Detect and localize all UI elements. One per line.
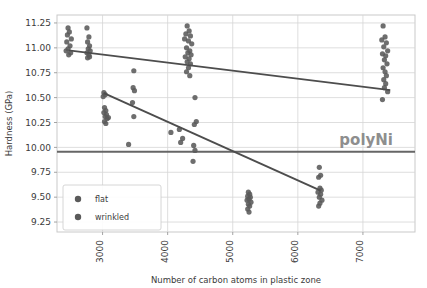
ytick-label-7: 11.00 <box>25 43 51 53</box>
data-point-flat <box>188 33 193 38</box>
y-axis-label: Hardness (GPa) <box>4 91 14 157</box>
data-point-wrinkled <box>316 204 321 209</box>
chart-figure: 9.259.509.7510.0010.2510.5010.7511.0011.… <box>0 0 427 288</box>
data-point-wrinkled <box>101 94 106 99</box>
ytick-label-8: 11.25 <box>25 18 51 28</box>
data-point-flat <box>131 114 136 119</box>
ytick-label-4: 10.25 <box>25 118 51 128</box>
ytick-label-2: 9.75 <box>31 167 51 177</box>
ytick-label-6: 10.75 <box>25 68 51 78</box>
ytick-label-1: 9.50 <box>31 192 51 202</box>
xtick-label-2: 5000 <box>225 240 235 263</box>
data-point-flat <box>379 37 384 42</box>
data-point-wrinkled <box>103 121 108 126</box>
data-point-wrinkled <box>168 130 173 135</box>
data-point-flat <box>132 88 137 93</box>
data-point-flat <box>85 55 90 60</box>
data-point-wrinkled <box>178 140 183 145</box>
data-point-flat <box>185 23 190 28</box>
legend-box <box>63 185 161 230</box>
scatter-plot: 9.259.509.7510.0010.2510.5010.7511.0011.… <box>0 0 427 288</box>
data-point-wrinkled <box>192 148 197 153</box>
data-point-wrinkled <box>246 209 251 214</box>
data-point-flat <box>66 52 71 57</box>
data-point-flat <box>86 34 91 39</box>
ytick-label-5: 10.50 <box>25 93 51 103</box>
data-point-flat <box>84 25 89 30</box>
xtick-label-0: 3000 <box>95 240 105 263</box>
data-point-flat <box>192 122 197 127</box>
data-point-flat <box>192 95 197 100</box>
legend-marker-wrinkled <box>75 214 81 220</box>
data-point-flat <box>380 97 385 102</box>
data-point-flat <box>384 61 389 66</box>
data-point-flat <box>187 73 192 78</box>
x-axis-label: Number of carbon atoms in plastic zone <box>151 275 321 285</box>
data-point-flat <box>385 48 390 53</box>
data-point-wrinkled <box>316 175 321 180</box>
legend-label-flat: flat <box>95 195 108 204</box>
legend-label-wrinkled: wrinkled <box>95 213 129 222</box>
data-point-wrinkled <box>191 143 196 148</box>
legend-marker-flat <box>75 196 81 202</box>
xtick-label-4: 7000 <box>355 240 365 263</box>
xtick-label-1: 4000 <box>160 240 170 263</box>
data-point-wrinkled <box>126 142 131 147</box>
data-point-wrinkled <box>317 165 322 170</box>
data-point-flat <box>131 68 136 73</box>
ytick-label-0: 9.25 <box>31 217 51 227</box>
data-point-wrinkled <box>190 159 195 164</box>
data-point-flat <box>183 31 188 36</box>
xtick-label-3: 6000 <box>290 240 300 263</box>
data-point-flat <box>189 41 194 46</box>
ytick-label-3: 10.00 <box>25 143 51 153</box>
data-point-flat <box>65 32 70 37</box>
data-point-flat <box>69 36 74 41</box>
data-point-wrinkled <box>106 115 111 120</box>
annotation-0: polyNi <box>339 131 393 149</box>
data-point-flat <box>381 44 386 49</box>
data-point-flat <box>381 23 386 28</box>
